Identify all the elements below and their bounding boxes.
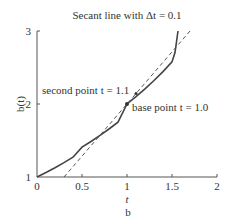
x-tick-2: 2 xyxy=(214,180,220,192)
x-tick-1: 1 xyxy=(124,180,130,192)
second-point-marker xyxy=(135,92,138,95)
x-axis-label: t xyxy=(125,193,129,205)
y-tick-2: 2 xyxy=(26,98,32,110)
y-axis-label: b(t) xyxy=(14,96,27,112)
figure-caption: b xyxy=(125,206,131,218)
chart-title: Secant line with Δt = 0.1 xyxy=(72,9,181,21)
y-tick-1: 1 xyxy=(26,171,32,183)
x-tick-0: 0 xyxy=(34,180,40,192)
base-point-marker xyxy=(125,102,129,106)
base-point-label: base point t = 1.0 xyxy=(132,101,209,113)
x-tick-0.5: 0.5 xyxy=(75,180,89,192)
secant-chart: Secant line with Δt = 0.1 3 2 1 0 0.5 1 … xyxy=(0,0,228,221)
x-tick-1.5: 1.5 xyxy=(165,180,179,192)
second-point-label: second point t = 1.1 xyxy=(42,84,129,96)
y-tick-3: 3 xyxy=(26,25,32,37)
